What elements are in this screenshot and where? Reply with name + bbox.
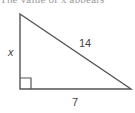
label-vertical-leg: x [7,46,14,58]
label-horizontal-leg: 7 [72,96,78,108]
label-hypotenuse: 14 [79,37,91,49]
right-triangle-diagram: x 14 7 [0,0,135,113]
triangle-shape [20,14,131,89]
right-angle-marker [20,78,31,89]
